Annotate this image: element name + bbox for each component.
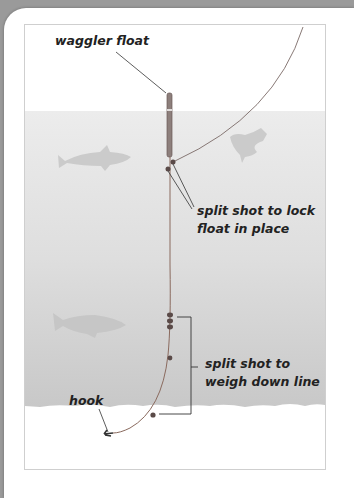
split-shot	[166, 167, 171, 172]
split-shot	[150, 412, 155, 417]
label-waggler-float: waggler float	[55, 32, 149, 50]
leader-hook	[99, 409, 108, 432]
split-shot	[168, 356, 173, 361]
label-hook: hook	[69, 392, 103, 410]
label-split-shot-weigh-2: weigh down line	[205, 373, 320, 391]
waggler-float	[167, 93, 172, 157]
split-shot	[167, 325, 173, 330]
label-split-shot-lock-2: float in place	[197, 220, 289, 238]
split-shot	[167, 319, 173, 324]
leader-waggler	[116, 52, 166, 93]
label-split-shot-weigh-1: split shot to	[205, 355, 290, 373]
diagram-frame: waggler float split shot to lock float i…	[24, 24, 326, 470]
hook	[104, 430, 113, 436]
label-split-shot-lock-1: split shot to lock	[197, 202, 315, 220]
split-shot	[167, 313, 173, 318]
split-shot	[171, 160, 176, 165]
